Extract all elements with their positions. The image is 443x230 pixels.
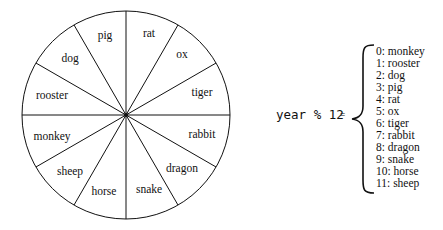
- mapping-item: 2: dog: [376, 69, 425, 81]
- mapping-item: 11: sheep: [376, 177, 425, 189]
- segment-label-monkey: monkey: [33, 130, 70, 143]
- segment-label-dragon: dragon: [166, 162, 198, 175]
- mapping-item: 9: snake: [376, 153, 425, 165]
- curly-brace-icon: [350, 44, 376, 194]
- segment-label-horse: horse: [92, 185, 117, 197]
- formula-expression: year % 12: [276, 107, 344, 122]
- mapping-item: 6: tiger: [376, 117, 425, 129]
- mapping-item: 5: ox: [376, 105, 425, 117]
- segment-label-pig: pig: [98, 29, 113, 42]
- mapping-item: 7: rabbit: [376, 129, 425, 141]
- equals-sign: =: [340, 109, 345, 119]
- mapping-item: 3: pig: [376, 81, 425, 93]
- segment-label-snake: snake: [136, 183, 162, 195]
- segment-label-ox: ox: [176, 48, 188, 60]
- mapping-item: 8: dragon: [376, 141, 425, 153]
- segment-label-rat: rat: [143, 27, 156, 39]
- segment-label-sheep: sheep: [57, 165, 83, 178]
- mapping-item: 10: horse: [376, 165, 425, 177]
- segment-label-dog: dog: [61, 52, 79, 65]
- mapping-item: 1: rooster: [376, 57, 425, 69]
- segment-label-rabbit: rabbit: [189, 128, 217, 140]
- segment-label-rooster: rooster: [36, 89, 68, 101]
- year-mapping-list: 0: monkey 1: rooster 2: dog 3: pig 4: ra…: [376, 45, 425, 189]
- zodiac-wheel: rat ox tiger rabbit dragon snake horse s…: [0, 0, 260, 230]
- wheel-center-dot: [124, 113, 128, 117]
- segment-label-tiger: tiger: [191, 86, 212, 99]
- mapping-item: 4: rat: [376, 93, 425, 105]
- mapping-item: 0: monkey: [376, 45, 425, 57]
